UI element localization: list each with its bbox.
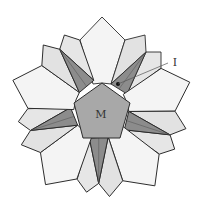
center-label: M [95,108,106,121]
pointer-label: I [173,56,177,69]
flower-tiling-diagram: M I [0,0,202,205]
